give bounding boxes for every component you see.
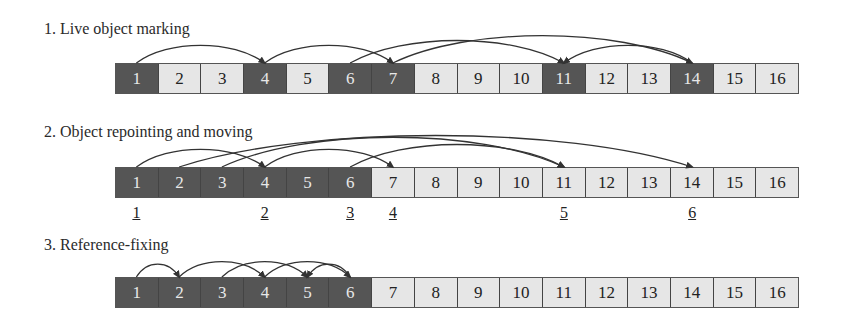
phase-1-title: 1. Live object marking [44,20,190,38]
pointer-arrow-2-to-4 [179,262,265,277]
pointer-arrow-7-to-14 [393,36,692,63]
phase-1-memory-row: 12345678910111213141516 [115,63,799,94]
pointer-arrow-6-to-5 [307,264,350,277]
pointer-arrow-1-to-4 [136,45,264,63]
pointer-arrow-3-to-11 [222,137,564,167]
memory-cell-7: 7 [372,64,415,93]
memory-cell-9: 9 [458,278,501,307]
memory-cell-8: 8 [415,64,458,93]
pointer-arrow-4-to-7 [265,45,393,63]
memory-cell-10: 10 [500,168,543,197]
memory-cell-16: 16 [756,168,798,197]
pointer-arrow-4-to-6 [265,262,351,277]
memory-cell-8: 8 [415,278,458,307]
pointer-arrow-3-to-5 [222,262,308,277]
memory-cell-6: 6 [329,64,372,93]
memory-cell-1: 1 [116,64,159,93]
new-address-label: 3 [346,204,354,222]
memory-cell-9: 9 [458,168,501,197]
memory-cell-3: 3 [201,64,244,93]
memory-cell-14: 14 [671,64,714,93]
memory-cell-16: 16 [756,278,798,307]
memory-cell-15: 15 [714,64,757,93]
memory-cell-11: 11 [543,64,586,93]
new-address-label: 1 [132,204,140,222]
memory-cell-4: 4 [244,278,287,307]
memory-cell-15: 15 [714,168,757,197]
memory-cell-7: 7 [372,278,415,307]
memory-cell-14: 14 [671,168,714,197]
phase-3-memory-row: 12345678910111213141516 [115,277,799,308]
new-address-label: 5 [560,204,568,222]
memory-cell-11: 11 [543,278,586,307]
memory-cell-13: 13 [628,64,671,93]
memory-cell-10: 10 [500,64,543,93]
new-address-label: 4 [389,204,397,222]
memory-cell-8: 8 [415,168,458,197]
memory-cell-4: 4 [244,168,287,197]
memory-cell-5: 5 [287,64,330,93]
memory-cell-3: 3 [201,278,244,307]
phase-3-title: 3. Reference-fixing [44,236,168,254]
memory-cell-7: 7 [372,168,415,197]
memory-cell-2: 2 [159,168,202,197]
memory-cell-13: 13 [628,278,671,307]
new-address-label: 6 [688,204,696,222]
pointer-arrow-1-to-2 [136,264,179,277]
memory-cell-5: 5 [287,168,330,197]
memory-cell-4: 4 [244,64,287,93]
memory-cell-6: 6 [329,278,372,307]
pointer-arrow-6-to-11 [350,40,564,63]
phase-2-title: 2. Object repointing and moving [44,123,252,141]
pointer-arrow-1-to-4 [136,149,264,167]
memory-cell-16: 16 [756,64,798,93]
memory-cell-14: 14 [671,278,714,307]
memory-cell-13: 13 [628,168,671,197]
pointer-arrow-14-to-11 [564,45,692,63]
pointer-arrow-6-to-11 [350,144,564,167]
memory-cell-1: 1 [116,168,159,197]
memory-cell-9: 9 [458,64,501,93]
memory-cell-2: 2 [159,64,202,93]
memory-cell-10: 10 [500,278,543,307]
memory-cell-12: 12 [586,278,629,307]
memory-cell-12: 12 [586,64,629,93]
pointer-arrow-4-to-7 [265,149,393,167]
memory-cell-5: 5 [287,278,330,307]
memory-cell-3: 3 [201,168,244,197]
memory-cell-2: 2 [159,278,202,307]
phase-2-memory-row: 12345678910111213141516 [115,167,799,198]
memory-cell-1: 1 [116,278,159,307]
memory-cell-11: 11 [543,168,586,197]
memory-cell-12: 12 [586,168,629,197]
new-address-label: 2 [261,204,269,222]
pointer-arrows [0,0,841,324]
memory-cell-6: 6 [329,168,372,197]
pointer-arrow-2-to-14 [179,136,692,168]
memory-cell-15: 15 [714,278,757,307]
